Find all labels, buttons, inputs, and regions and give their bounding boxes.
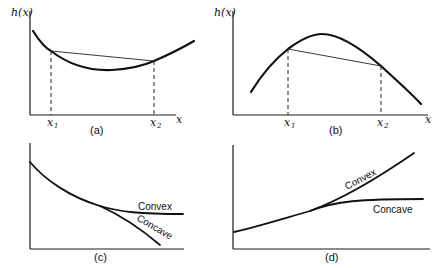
- x-axis-label: x: [176, 113, 183, 126]
- concave-label: Concave: [373, 204, 413, 215]
- convexity-diagram: h(x) x 1 x 2 x (a) h(x) x 1 x 2 x (b) Co…: [0, 0, 440, 268]
- concave-curve: [251, 34, 421, 104]
- panel-caption: (d): [325, 251, 338, 263]
- convex-label: Convex: [138, 201, 172, 212]
- panel-a: h(x) x 1 x 2 x (a): [11, 6, 194, 136]
- x-axis-label: x: [425, 113, 432, 126]
- panel-d: Convex Concave (d): [233, 145, 430, 263]
- x1-label: x: [284, 116, 291, 129]
- x1-subscript: 1: [54, 122, 58, 130]
- panel-caption: (c): [94, 251, 107, 263]
- panel-caption: (a): [90, 124, 103, 136]
- x2-subscript: 2: [156, 122, 162, 130]
- convex-curve: [33, 31, 194, 70]
- x1-label: x: [47, 116, 54, 129]
- panel-c: Convex Concave (c): [30, 143, 184, 263]
- x1-subscript: 1: [291, 122, 295, 130]
- x2-label: x: [377, 116, 384, 129]
- concave-label: Concave: [135, 212, 175, 241]
- x2-label: x: [150, 116, 157, 129]
- y-axis-label: h(x): [214, 6, 236, 19]
- convex-branch: [234, 153, 414, 232]
- x2-subscript: 2: [383, 122, 389, 130]
- panel-b: h(x) x 1 x 2 x (b): [214, 6, 432, 136]
- panel-caption: (b): [329, 124, 342, 136]
- y-axis-label: h(x): [11, 6, 33, 19]
- chord: [288, 49, 381, 66]
